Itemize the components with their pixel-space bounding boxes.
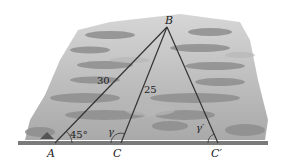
vertex-label-C-prime: C′ [211,147,222,160]
vertex-label-C: C [113,147,122,160]
vertex-label-A: A [46,147,55,160]
angle-label-A: 45° [70,129,88,140]
triangle-diagram: B A C C′ 30 25 45° γ γ′ [0,0,288,165]
vertex-label-B: B [164,14,173,27]
angle-label-C: γ [108,126,114,137]
angle-label-C-prime: γ′ [196,122,205,133]
side-label-AB: 30 [97,75,110,86]
landscape-background [25,14,268,140]
side-label-BC: 25 [144,84,157,95]
